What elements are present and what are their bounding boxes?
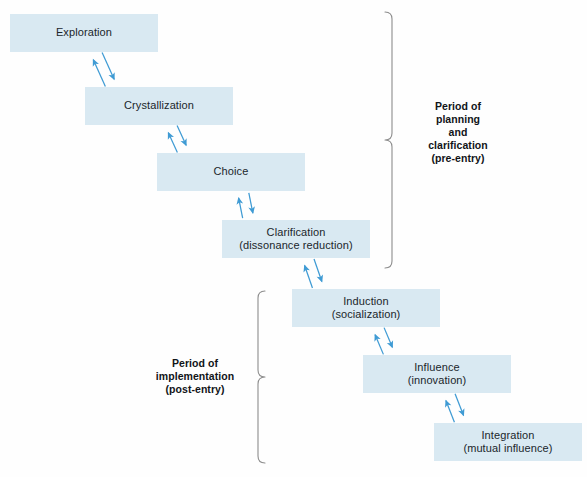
arrow-down-influence-integration xyxy=(455,394,464,416)
arrow-up-influence-integration xyxy=(446,401,455,423)
brace-post-entry xyxy=(258,291,265,463)
period-label-line: Period of xyxy=(408,100,508,113)
stage-label-primary: Influence xyxy=(414,361,460,375)
period-label-pre-entry: Period ofplanningandclarification(pre-en… xyxy=(408,100,508,165)
stage-label-primary: Choice xyxy=(214,165,249,179)
career-stages-diagram: ExplorationCrystallizationChoiceClarific… xyxy=(0,0,587,477)
period-label-line: (pre-entry) xyxy=(408,152,508,165)
period-label-line: Period of xyxy=(140,357,250,370)
arrow-down-clarification-induction xyxy=(314,259,322,282)
stage-label-secondary: (mutual influence) xyxy=(463,442,552,456)
brace-pre-entry xyxy=(385,12,392,268)
stage-label-primary: Induction xyxy=(343,295,389,309)
arrow-up-choice-clarification xyxy=(239,198,243,218)
period-label-line: (post-entry) xyxy=(140,383,250,396)
arrow-down-choice-clarification xyxy=(249,193,253,213)
stage-label-secondary: (dissonance reduction) xyxy=(239,239,352,253)
period-label-line: planning xyxy=(408,113,508,126)
period-label-line: and xyxy=(408,126,508,139)
stage-label-primary: Crystallization xyxy=(124,99,194,113)
arrow-up-exploration-crystallization xyxy=(93,60,105,87)
stage-box-crystallization[interactable]: Crystallization xyxy=(85,87,233,125)
arrow-up-crystallization-choice xyxy=(168,133,177,153)
period-label-line: clarification xyxy=(408,139,508,152)
stage-box-choice[interactable]: Choice xyxy=(157,153,305,191)
period-label-line: implementation xyxy=(140,370,250,383)
stage-label-primary: Exploration xyxy=(56,26,112,40)
stage-box-clarification[interactable]: Clarification(dissonance reduction) xyxy=(222,220,370,258)
stage-label-secondary: (innovation) xyxy=(408,374,467,388)
period-label-post-entry: Period ofimplementation(post-entry) xyxy=(140,357,250,396)
arrow-down-exploration-crystallization xyxy=(102,52,114,79)
stage-box-exploration[interactable]: Exploration xyxy=(10,14,158,52)
stage-box-integration[interactable]: Integration(mutual influence) xyxy=(434,423,582,461)
arrow-up-induction-influence xyxy=(375,335,383,355)
arrow-down-induction-influence xyxy=(384,328,392,348)
arrow-up-clarification-induction xyxy=(305,265,313,288)
stage-box-influence[interactable]: Influence(innovation) xyxy=(363,355,511,393)
arrow-down-crystallization-choice xyxy=(177,125,186,145)
stage-box-induction[interactable]: Induction(socialization) xyxy=(292,289,440,327)
stage-label-primary: Integration xyxy=(481,429,534,443)
stage-label-secondary: (socialization) xyxy=(332,308,401,322)
stage-label-primary: Clarification xyxy=(267,226,326,240)
